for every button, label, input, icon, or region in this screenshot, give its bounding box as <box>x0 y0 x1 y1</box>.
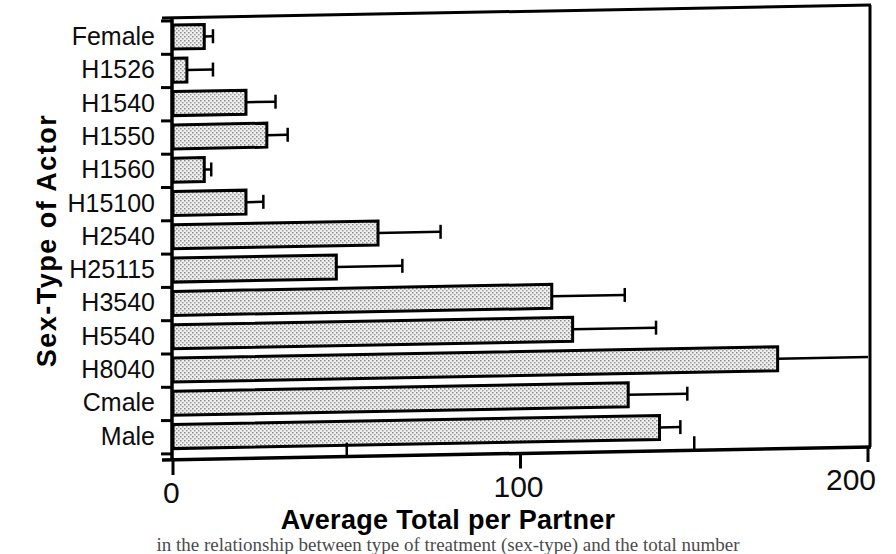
bar-h2540 <box>173 221 378 249</box>
bars-layer <box>173 24 778 448</box>
bar-h3540 <box>173 284 552 315</box>
category-label-h15100: H15100 <box>67 191 155 216</box>
figure-container: FemaleH1526H1540H1550H1560H15100H2540H25… <box>0 0 896 554</box>
error-bar-line-cmale <box>628 394 687 395</box>
bar-h1540 <box>173 90 246 115</box>
bar-h8040 <box>173 347 778 382</box>
bar-h1550 <box>173 123 267 149</box>
category-label-female: Female <box>72 24 155 49</box>
x-tick-label-200: 200 <box>826 463 876 497</box>
bar-h1526 <box>173 58 187 82</box>
category-label-h5540: H5540 <box>81 324 155 349</box>
bar-h5540 <box>173 317 573 348</box>
error-bar-line-h3540 <box>552 295 625 296</box>
x-axis-line <box>162 447 871 460</box>
error-bar-line-h25115 <box>336 266 402 267</box>
x-tick-label-100: 100 <box>494 470 544 504</box>
category-label-male: Male <box>101 424 155 449</box>
category-label-h1560: H1560 <box>81 157 155 182</box>
bar-male <box>173 416 660 449</box>
category-label-h1550: H1550 <box>81 124 155 149</box>
error-bar-line-h1540 <box>246 102 276 103</box>
category-label-h2540: H2540 <box>81 224 155 249</box>
x-axis-label: Average Total per Partner <box>0 505 896 536</box>
category-label-h25115: H25115 <box>69 257 155 282</box>
error-bar-line-h5540 <box>573 328 656 330</box>
bar-h25115 <box>173 255 336 282</box>
figure-caption: in the relationship between type of trea… <box>0 534 896 554</box>
error-bar-line-h2540 <box>378 232 441 233</box>
bar-h1560 <box>173 158 204 183</box>
category-label-cmale: Cmale <box>83 390 155 415</box>
bar-cmale <box>173 383 628 416</box>
error-bar-line-h8040 <box>778 357 868 359</box>
category-label-h3540: H3540 <box>81 290 155 315</box>
category-label-h8040: H8040 <box>81 357 155 382</box>
bar-h15100 <box>173 190 246 215</box>
category-label-h1526: H1526 <box>81 57 155 82</box>
plot-top-border <box>162 5 871 18</box>
category-label-h1540: H1540 <box>81 91 155 116</box>
bar-female <box>173 24 204 49</box>
y-axis-label: Sex-Type of Actor <box>32 31 63 451</box>
